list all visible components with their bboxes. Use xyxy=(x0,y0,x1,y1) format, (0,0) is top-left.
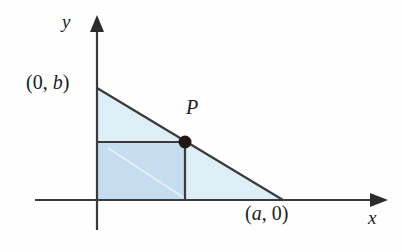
x-intercept-open: ( xyxy=(245,202,252,224)
x-intercept-second: 0 xyxy=(272,202,282,224)
point-p-label: P xyxy=(186,97,198,117)
point-p-marker xyxy=(179,136,192,149)
figure-canvas: y x (0, b) (a, 0) P xyxy=(0,0,402,252)
y-intercept-close: ) xyxy=(63,71,70,93)
x-intercept-label: (a, 0) xyxy=(245,203,288,223)
x-intercept-first: a xyxy=(252,202,262,224)
x-axis-arrowhead xyxy=(370,193,388,207)
y-intercept-first: 0 xyxy=(33,71,43,93)
inscribed-rectangle-region xyxy=(97,142,185,200)
graph-svg xyxy=(0,0,402,252)
x-intercept-comma: , xyxy=(262,202,272,224)
y-axis-label: y xyxy=(62,12,70,31)
y-intercept-comma: , xyxy=(43,71,53,93)
x-axis-label: x xyxy=(368,208,376,227)
y-intercept-second: b xyxy=(53,71,63,93)
y-axis-arrowhead xyxy=(90,15,104,32)
y-intercept-label: (0, b) xyxy=(26,72,69,92)
y-intercept-open: ( xyxy=(26,71,33,93)
x-intercept-close: ) xyxy=(282,202,289,224)
